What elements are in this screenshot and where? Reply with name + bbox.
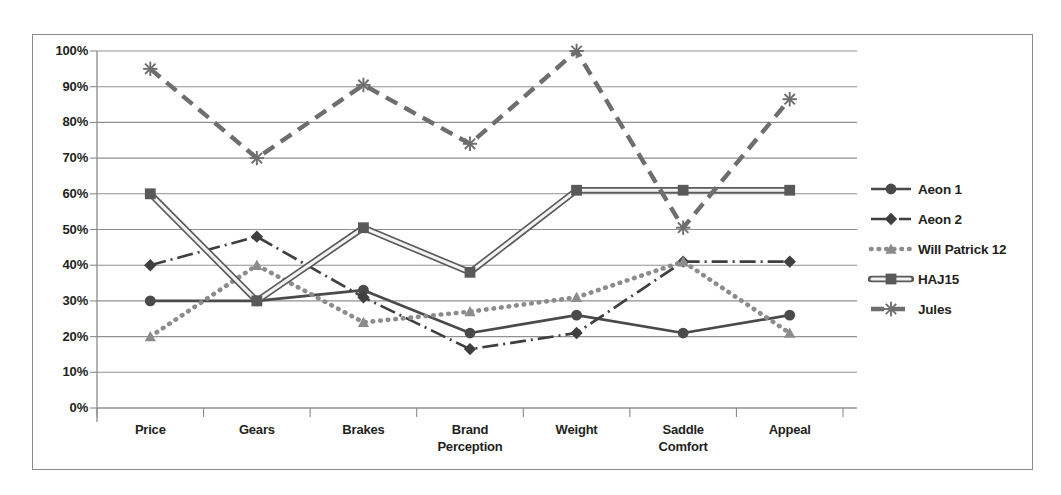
x-axis-label-appeal: Appeal [736, 421, 843, 438]
legend-key-asterisk-icon [868, 298, 914, 320]
x-axis-label-line: Brakes [310, 421, 417, 438]
y-axis-label-70: 70% [36, 150, 88, 165]
y-axis-label-100: 100% [36, 43, 88, 58]
data-point-asterisk [884, 302, 898, 316]
x-axis-label-line: Perception [417, 438, 524, 455]
x-axis-label-line: Price [97, 421, 204, 438]
y-axis-label-50: 50% [36, 222, 88, 237]
y-axis-label-20: 20% [36, 329, 88, 344]
legend-label: HAJ15 [918, 272, 959, 287]
x-axis-label-line: Saddle [630, 421, 737, 438]
legend-item-will-patrick-12[interactable]: Will Patrick 12 [868, 236, 1006, 262]
legend-item-aeon-1[interactable]: Aeon 1 [868, 176, 962, 202]
legend-label: Jules [918, 302, 952, 317]
y-axis-label-0: 0% [36, 400, 88, 415]
legend-label: Aeon 2 [918, 212, 962, 227]
y-axis-label-60: 60% [36, 186, 88, 201]
y-axis-label-40: 40% [36, 257, 88, 272]
x-axis-label-line: Gears [204, 421, 311, 438]
x-axis-label-saddle-comfort: SaddleComfort [630, 421, 737, 455]
x-axis-label-line: Appeal [736, 421, 843, 438]
x-axis-label-price: Price [97, 421, 204, 438]
data-point-circle [886, 184, 897, 195]
x-axis-label-weight: Weight [523, 421, 630, 438]
legend-label: Will Patrick 12 [918, 242, 1006, 257]
x-axis-label-gears: Gears [204, 421, 311, 438]
legend-label: Aeon 1 [918, 182, 962, 197]
y-axis-label-90: 90% [36, 79, 88, 94]
y-axis-label-30: 30% [36, 293, 88, 308]
legend-item-jules[interactable]: Jules [868, 296, 952, 322]
data-point-square [886, 274, 897, 285]
legend-key-circle-icon [868, 178, 914, 200]
legend-key-square-icon [868, 268, 914, 290]
x-axis-label-line: Weight [523, 421, 630, 438]
y-axis-label-80: 80% [36, 114, 88, 129]
data-point-diamond [885, 213, 897, 225]
x-axis-label-brakes: Brakes [310, 421, 417, 438]
y-axis-label-10: 10% [36, 364, 88, 379]
legend-key-triangle-icon [868, 238, 914, 260]
legend-item-aeon-2[interactable]: Aeon 2 [868, 206, 962, 232]
legend-item-haj15[interactable]: HAJ15 [868, 266, 959, 292]
x-axis-label-line: Comfort [630, 438, 737, 455]
x-axis-label-brand-perception: BrandPerception [417, 421, 524, 455]
x-axis-label-line: Brand [417, 421, 524, 438]
legend-key-diamond-icon [868, 208, 914, 230]
